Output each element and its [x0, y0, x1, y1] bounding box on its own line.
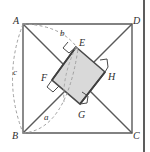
vertex-label-f: F: [41, 73, 47, 83]
vertex-label-c: C: [133, 131, 140, 141]
vertex-label-h: H: [108, 72, 115, 82]
vertex-label-d: D: [133, 16, 140, 26]
right-angle-mark-f-inner: [53, 86, 59, 92]
right-angle-mark-e: [63, 42, 69, 53]
dashed-arc-b: [23, 24, 78, 49]
vertex-label-e: E: [79, 38, 85, 48]
right-angle-mark-h: [100, 59, 108, 67]
vertex-label-g: G: [78, 110, 85, 120]
arc-label-a: a: [44, 113, 49, 122]
geometry-figure: [0, 0, 150, 152]
vertex-label-b: B: [12, 131, 18, 141]
vertex-label-a: A: [13, 16, 19, 26]
right-angle-mark-f: [47, 80, 53, 92]
page-edge-line: [143, 0, 145, 152]
arc-label-c: c: [13, 68, 17, 77]
dashed-arc-c: [13, 24, 24, 133]
arc-label-b: b: [60, 29, 65, 38]
